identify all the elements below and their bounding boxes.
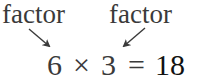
factor-a: 6 — [47, 50, 62, 80]
factor-label-right: factor — [109, 1, 172, 28]
times-operator: × — [73, 50, 90, 80]
factor-b: 3 — [101, 50, 116, 80]
equals-operator: = — [128, 50, 145, 80]
arrow-left-icon — [29, 29, 49, 46]
arrow-right-icon — [124, 28, 145, 46]
factor-label-left: factor — [2, 1, 65, 28]
product-value: 18 — [155, 50, 185, 80]
